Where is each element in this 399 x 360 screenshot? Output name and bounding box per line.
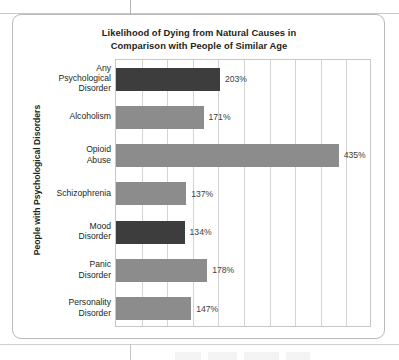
- category-label: Schizophrenia: [27, 174, 111, 212]
- bar: [116, 182, 186, 205]
- bar-value-label: 171%: [209, 113, 231, 122]
- bar-row: 171%: [116, 98, 370, 136]
- page-rule-bottom: [0, 344, 399, 345]
- bar: [116, 144, 339, 167]
- bar: [116, 68, 220, 91]
- category-label: PersonalityDisorder: [27, 289, 111, 327]
- bar: [116, 106, 204, 129]
- bar-row: 178%: [116, 251, 370, 289]
- bar-row: 147%: [116, 290, 370, 328]
- bar-row: 137%: [116, 175, 370, 213]
- page-caption-placeholder: [175, 352, 310, 360]
- category-label: Alcoholism: [27, 97, 111, 135]
- bar-row: 134%: [116, 213, 370, 251]
- category-label: OpioidAbuse: [27, 136, 111, 174]
- bar-value-label: 178%: [212, 266, 234, 275]
- bar-value-label: 137%: [191, 190, 213, 199]
- chart-title-line-2: Comparison with People of Similar Age: [39, 40, 359, 53]
- y-axis-category-labels: AnyPsychologicalDisorderAlcoholismOpioid…: [27, 59, 111, 327]
- bar: [116, 221, 185, 244]
- chart-title-line-1: Likelihood of Dying from Natural Causes …: [39, 27, 359, 40]
- bar-value-label: 147%: [196, 305, 218, 314]
- bar-value-label: 203%: [225, 75, 247, 84]
- bar: [116, 259, 207, 282]
- page-connector-line-top: [130, 0, 131, 14]
- bar-value-label: 134%: [190, 228, 212, 237]
- bar-value-label: 435%: [344, 151, 366, 160]
- category-label: PanicDisorder: [27, 250, 111, 288]
- bar: [116, 297, 191, 320]
- category-label: AnyPsychologicalDisorder: [27, 59, 111, 97]
- bar-row: 435%: [116, 137, 370, 175]
- figure-container: Likelihood of Dying from Natural Causes …: [12, 14, 385, 339]
- bar-row: 203%: [116, 60, 370, 98]
- bar-series: 203%171%435%137%134%178%147%: [116, 60, 370, 326]
- chart-title: Likelihood of Dying from Natural Causes …: [39, 27, 359, 52]
- plot-area: 203%171%435%137%134%178%147%: [115, 59, 371, 327]
- page-connector-line-bottom: [130, 344, 131, 360]
- category-label: MoodDisorder: [27, 212, 111, 250]
